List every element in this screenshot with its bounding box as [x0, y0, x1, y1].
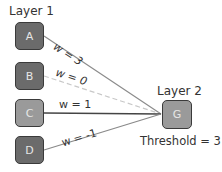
node-b: B — [15, 62, 44, 90]
node-a-label: A — [26, 30, 34, 43]
node-g-label: G — [173, 108, 182, 121]
edge-c-g — [44, 113, 161, 114]
node-d: D — [15, 136, 44, 164]
threshold-label: Threshold = 3 — [140, 134, 221, 148]
layer2-title: Layer 2 — [157, 84, 202, 98]
node-g: G — [162, 100, 192, 129]
layer1-title: Layer 1 — [9, 4, 54, 18]
node-d-label: D — [25, 144, 33, 157]
weight-c-g: w = 1 — [59, 98, 91, 111]
node-c: C — [15, 99, 44, 127]
node-b-label: B — [26, 70, 34, 83]
node-c-label: C — [26, 107, 34, 120]
node-a: A — [15, 22, 44, 50]
